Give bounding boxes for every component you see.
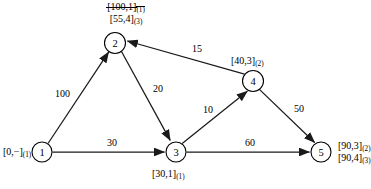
edge-3-to-4 (182, 91, 247, 143)
node-5-label-group: [90,3](2) [90,4](3) (338, 140, 371, 164)
node-2-label-old-text: [100,1] (107, 1, 136, 13)
node-4-label-iter: (2) (255, 60, 263, 68)
edge-2-to-3 (122, 52, 171, 141)
node-5-label-b-text: [90,4] (338, 152, 362, 163)
node-5-number: 5 (318, 147, 323, 158)
edge-weight-1-to-2: 100 (55, 89, 70, 99)
edge-4-to-5 (259, 89, 314, 142)
node-2-label-group: [100,1](1) [55,4](3) (97, 1, 155, 25)
network-diagram-canvas: 1 2 3 4 5 100 30 20 10 60 15 50 [0,−](1)… (0, 0, 371, 189)
node-2-label-new: [55,4](3) (97, 13, 155, 25)
node-4-label-text: [40,3] (231, 55, 255, 66)
node-5-label-b-iter: (3) (362, 157, 370, 165)
edge-weight-4-to-5: 50 (294, 104, 304, 114)
edge-4-to-2 (127, 41, 244, 74)
node-2-label-new-text: [55,4] (110, 13, 134, 24)
edge-weight-2-to-3: 20 (153, 84, 163, 94)
edge-weight-4-to-2: 15 (192, 44, 202, 54)
node-3-label-iter: (1) (176, 173, 184, 181)
node-4-number: 4 (250, 76, 256, 87)
node-3-number: 3 (173, 147, 178, 158)
node-4-label: [40,3](2) (231, 55, 264, 67)
node-2-label-new-iter: (3) (134, 18, 142, 26)
node-1-label-text: [0,−] (3, 146, 23, 157)
node-2-label-old: [100,1](1) (97, 1, 155, 13)
node-2-label-old-iter: (1) (136, 6, 144, 15)
node-1-number: 1 (39, 147, 44, 158)
node-5-label-a-text: [90,3] (338, 140, 362, 151)
node-1-label: [0,−](1) (3, 146, 31, 158)
node-3-label-text: [30,1] (152, 168, 176, 179)
edge-weight-3-to-5: 60 (245, 138, 255, 148)
node-5-label-a-iter: (2) (362, 145, 370, 153)
node-3-label: [30,1](1) (152, 168, 185, 180)
node-2-number: 2 (112, 38, 117, 49)
edge-weight-3-to-4: 10 (203, 105, 213, 115)
edge-weight-1-to-3: 30 (107, 138, 117, 148)
node-1-label-iter: (1) (23, 151, 31, 159)
node-5-label-b: [90,4](3) (338, 152, 371, 164)
node-5-label-a: [90,3](2) (338, 140, 371, 152)
